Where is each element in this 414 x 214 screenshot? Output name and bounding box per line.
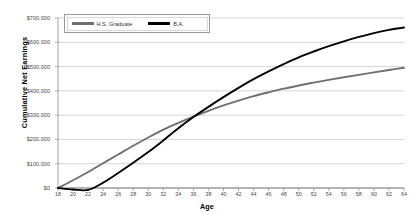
x-tick-label: 26 [115,191,121,197]
legend-label: B.A. [173,21,184,27]
x-tick-label: 56 [341,191,347,197]
x-axis-title: Age [0,202,414,211]
x-tick-label: 52 [311,191,317,197]
x-tick-label: 24 [100,191,106,197]
x-tick-label: 64 [401,191,407,197]
x-tick-label: 54 [326,191,332,197]
x-tick-label: 36 [190,191,196,197]
legend-item-ba: B.A. [148,21,184,27]
x-tick-label: 60 [371,191,377,197]
legend-swatch-icon [148,22,170,24]
x-tick-label: 48 [281,191,287,197]
earnings-line-chart: Cumulative Net Earnings $0$100,000$200,0… [0,0,414,214]
x-tick-label: 58 [356,191,362,197]
x-tick-label: 30 [145,191,151,197]
x-tick-label: 62 [386,191,392,197]
x-tick-label: 38 [205,191,211,197]
chart-legend: H.S. Graduate B.A. [64,14,210,33]
x-tick-label: 40 [220,191,226,197]
x-tick-label: 50 [296,191,302,197]
x-tick-label: 22 [85,191,91,197]
legend-item-hs-graduate: H.S. Graduate [72,21,133,27]
x-tick-label: 46 [266,191,272,197]
x-tick-label: 34 [175,191,181,197]
x-tick-label: 18 [55,191,61,197]
x-tick-label: 44 [251,191,257,197]
x-tick-label: 42 [236,191,242,197]
legend-swatch-icon [72,22,94,24]
legend-label: H.S. Graduate [97,21,133,27]
x-tick-label: 28 [130,191,136,197]
x-tick-label: 32 [160,191,166,197]
x-tick-label: 20 [70,191,76,197]
